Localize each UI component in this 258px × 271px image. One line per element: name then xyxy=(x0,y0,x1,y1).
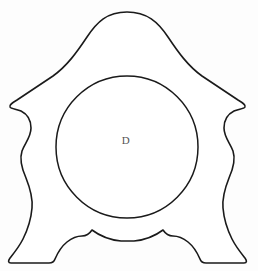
clock-case-drawing xyxy=(0,0,258,271)
clock-case-silhouette xyxy=(9,12,247,263)
figure-canvas: D xyxy=(0,0,258,271)
